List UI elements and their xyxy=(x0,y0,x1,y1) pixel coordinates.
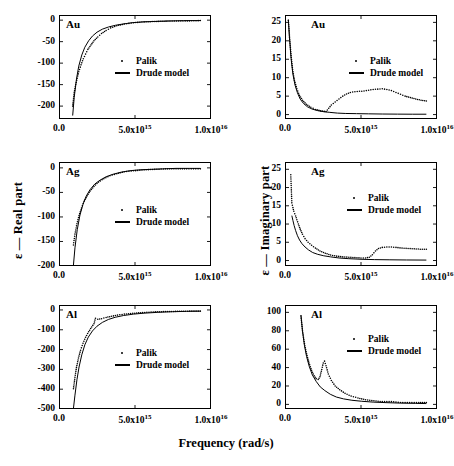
x-tick-label: 0.0 xyxy=(279,271,291,281)
panel-label-ag-imag: Ag xyxy=(311,165,324,177)
y-tick-label: -300 xyxy=(38,365,55,375)
y-tick-label: 20 xyxy=(272,381,282,391)
x-tick-label: 1.0x1016 xyxy=(420,271,453,283)
y-tick-label: 80 xyxy=(272,326,282,336)
palik-dot-icon xyxy=(345,60,367,62)
plot-panel-ag-imag: Ag25201510500.05.0x10151.0x1016PalikDrud… xyxy=(285,162,437,266)
y-tick-label: 10 xyxy=(272,73,282,83)
y-tick-label: -400 xyxy=(38,384,55,394)
y-tick-label: 0 xyxy=(276,400,281,410)
x-tick-label: 0.0 xyxy=(279,124,291,134)
drude-line-icon xyxy=(343,209,365,211)
y-tick-label: -100 xyxy=(38,212,55,222)
y-tick-label: -200 xyxy=(38,101,55,111)
legend-label-palik: Palik xyxy=(367,55,391,67)
legend-item-drude-model: Drude model xyxy=(111,359,189,371)
legend-au-imag: PalikDrude model xyxy=(345,55,423,79)
y-tick-label: 20 xyxy=(272,183,282,193)
legend-al-imag: PalikDrude model xyxy=(343,333,421,357)
legend-label-palik: Palik xyxy=(133,55,157,67)
x-tick-exponent: 15 xyxy=(145,413,152,421)
y-tick-label: -50 xyxy=(42,188,55,198)
legend-label-drude-model: Drude model xyxy=(133,359,189,371)
x-tick-exponent: 16 xyxy=(221,413,228,421)
x-tick-label: 5.0x1015 xyxy=(118,124,151,136)
legend-item-palik: Palik xyxy=(111,55,189,67)
x-tick-label: 5.0x1015 xyxy=(118,414,151,426)
x-tick-mantissa: 5.0x10 xyxy=(344,272,370,282)
legend-label-drude-model: Drude model xyxy=(365,345,421,357)
y-tick-label: 10 xyxy=(272,219,282,229)
legend-item-palik: Palik xyxy=(345,55,423,67)
x-tick-exponent: 15 xyxy=(371,123,378,131)
legend-label-drude-model: Drude model xyxy=(133,67,189,79)
x-tick-mantissa: 5.0x10 xyxy=(118,415,144,425)
y-tick-label: -100 xyxy=(38,58,55,68)
palik-dot-icon xyxy=(111,209,133,211)
x-tick-label: 0.0 xyxy=(53,414,65,424)
x-tick-exponent: 15 xyxy=(371,413,378,421)
y-tick-label: 0 xyxy=(276,110,281,120)
y-tick-label: 40 xyxy=(272,363,282,373)
x-tick-label: 1.0x1016 xyxy=(194,414,227,426)
x-tick-mantissa: 1.0x10 xyxy=(194,272,220,282)
panel-label-au-real: Au xyxy=(66,18,80,30)
drude-line-icon xyxy=(111,221,133,223)
x-tick-label: 5.0x1015 xyxy=(344,414,377,426)
y-axis-label-real-part: ε — Real part xyxy=(11,173,26,269)
legend-label-palik: Palik xyxy=(133,204,157,216)
panel-label-ag-real: Ag xyxy=(66,165,79,177)
x-tick-label: 0.0 xyxy=(53,271,65,281)
x-tick-mantissa: 1.0x10 xyxy=(420,272,446,282)
x-tick-label: 5.0x1015 xyxy=(344,124,377,136)
plot-panel-au-imag: Au25201510500.05.0x10151.0x1016PalikDrud… xyxy=(285,15,437,119)
y-tick-label: 15 xyxy=(272,55,282,65)
legend-item-palik: Palik xyxy=(111,347,189,359)
x-tick-label: 5.0x1015 xyxy=(344,271,377,283)
legend-ag-imag: PalikDrude model xyxy=(343,192,421,216)
legend-item-drude-model: Drude model xyxy=(111,216,189,228)
x-tick-exponent: 16 xyxy=(221,270,228,278)
y-tick-label: 60 xyxy=(272,344,282,354)
plot-panel-ag-real: Ag0-50-100-150-2000.05.0x10151.0x1016Pal… xyxy=(59,162,211,266)
legend-label-drude-model: Drude model xyxy=(365,204,421,216)
x-tick-mantissa: 1.0x10 xyxy=(420,415,446,425)
y-tick-label: 0 xyxy=(50,305,55,315)
legend-item-drude-model: Drude model xyxy=(343,204,421,216)
y-tick-label: 0 xyxy=(50,163,55,173)
y-tick-label: 15 xyxy=(272,201,282,211)
x-tick-exponent: 15 xyxy=(371,270,378,278)
y-tick-label: 5 xyxy=(276,91,281,101)
legend-al-real: PalikDrude model xyxy=(111,347,189,371)
y-tick-label: 0 xyxy=(276,256,281,266)
panel-label-al-imag: Al xyxy=(311,308,322,320)
legend-ag-real: PalikDrude model xyxy=(111,204,189,228)
drude-line-icon xyxy=(111,72,133,74)
x-tick-mantissa: 1.0x10 xyxy=(194,125,220,135)
legend-item-drude-model: Drude model xyxy=(345,67,423,79)
x-tick-mantissa: 5.0x10 xyxy=(118,125,144,135)
legend-label-palik: Palik xyxy=(133,347,157,359)
panel-label-au-imag: Au xyxy=(311,18,325,30)
y-tick-label: -100 xyxy=(38,325,55,335)
x-axis-label-frequency: Frequency (rad/s) xyxy=(0,436,452,451)
y-tick-label: 5 xyxy=(276,238,281,248)
plot-curves-al-imag xyxy=(285,305,437,409)
x-tick-label: 1.0x1016 xyxy=(194,124,227,136)
x-tick-mantissa: 5.0x10 xyxy=(118,272,144,282)
plot-panel-au-real: Au0-50-100-150-2000.05.0x10151.0x1016Pal… xyxy=(59,15,211,119)
palik-dot-icon xyxy=(343,197,365,199)
y-tick-label: 25 xyxy=(272,18,282,28)
y-tick-label: 0 xyxy=(50,15,55,25)
legend-label-palik: Palik xyxy=(365,192,389,204)
x-tick-label: 1.0x1016 xyxy=(420,414,453,426)
x-tick-label: 0.0 xyxy=(53,124,65,134)
legend-label-drude-model: Drude model xyxy=(133,216,189,228)
x-tick-label: 1.0x1016 xyxy=(420,124,453,136)
legend-item-palik: Palik xyxy=(343,333,421,345)
series-palik xyxy=(290,174,427,259)
x-tick-label: 0.0 xyxy=(279,414,291,424)
legend-item-drude-model: Drude model xyxy=(343,345,421,357)
x-tick-mantissa: 5.0x10 xyxy=(344,125,370,135)
